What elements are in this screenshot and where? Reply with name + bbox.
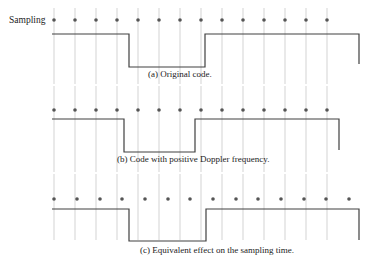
sampling-point-icon xyxy=(347,197,351,201)
sampling-point-icon xyxy=(325,18,329,22)
sampling-point-icon xyxy=(211,197,215,201)
sampling-point-icon xyxy=(157,18,161,22)
sampling-point-icon xyxy=(304,108,308,112)
sampling-point-icon xyxy=(157,108,161,112)
code-waveform xyxy=(52,119,339,152)
sampling-point-icon xyxy=(136,18,140,22)
sampling-point-icon xyxy=(178,108,182,112)
sampling-point-icon xyxy=(220,108,224,112)
sampling-point-icon xyxy=(73,18,77,22)
sampling-point-icon xyxy=(279,197,283,201)
sampling-point-icon xyxy=(283,108,287,112)
sampling-point-icon xyxy=(199,18,203,22)
sampling-point-icon xyxy=(166,197,170,201)
sampling-point-icon xyxy=(256,197,260,201)
sampling-point-icon xyxy=(234,197,238,201)
sampling-label: Sampling xyxy=(9,15,46,25)
sampling-point-icon xyxy=(143,197,147,201)
sampling-point-icon xyxy=(94,18,98,22)
panel-caption: (b) Code with positive Doppler frequency… xyxy=(117,154,269,164)
sampling-point-icon xyxy=(302,197,306,201)
sampling-point-icon xyxy=(73,108,77,112)
sampling-point-icon xyxy=(241,108,245,112)
sampling-point-icon xyxy=(262,108,266,112)
panel-caption: (c) Equivalent effect on the sampling ti… xyxy=(140,245,294,255)
sampling-point-icon xyxy=(241,18,245,22)
sampling-point-icon xyxy=(52,108,56,112)
sampling-point-icon xyxy=(325,108,329,112)
sampling-point-icon xyxy=(98,197,102,201)
panel-original-code: (a) Original code. xyxy=(52,8,359,84)
code-waveform xyxy=(52,34,359,67)
panel-caption: (a) Original code. xyxy=(148,69,212,79)
sampling-point-icon xyxy=(220,18,224,22)
sampling-point-icon xyxy=(324,197,328,201)
sampling-point-icon xyxy=(188,197,192,201)
panel-positive-doppler: (b) Code with positive Doppler frequency… xyxy=(52,86,339,172)
sampling-point-icon xyxy=(199,108,203,112)
sampling-point-icon xyxy=(136,108,140,112)
sampling-point-icon xyxy=(304,18,308,22)
sampling-point-icon xyxy=(120,197,124,201)
sampling-point-icon xyxy=(52,18,56,22)
sampling-point-icon xyxy=(75,197,79,201)
sampling-doppler-diagram: Sampling (a) Original code. (b) Code wit… xyxy=(0,0,368,258)
sampling-point-icon xyxy=(115,18,119,22)
sampling-point-icon xyxy=(178,18,182,22)
sampling-point-icon xyxy=(262,18,266,22)
sampling-point-icon xyxy=(52,197,56,201)
sampling-point-icon xyxy=(283,18,287,22)
sampling-point-icon xyxy=(94,108,98,112)
code-waveform xyxy=(52,209,359,241)
panel-equivalent-sampling: (c) Equivalent effect on the sampling ti… xyxy=(52,174,359,255)
sampling-point-icon xyxy=(115,108,119,112)
